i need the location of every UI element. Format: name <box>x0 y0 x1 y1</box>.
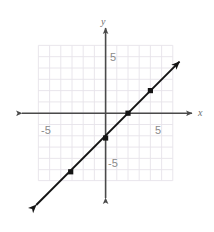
coordinate-plane-figure: 5 -5 5 -5 x y <box>0 0 214 232</box>
y-tick-label-negative: -5 <box>108 157 118 169</box>
x-tick-label-positive: 5 <box>155 124 161 136</box>
y-axis-label: y <box>101 16 105 27</box>
data-point <box>148 88 153 93</box>
x-tick-label-negative: -5 <box>41 124 51 136</box>
x-axis-label: x <box>198 107 202 118</box>
graph-canvas <box>0 0 214 232</box>
data-point <box>125 111 130 116</box>
y-tick-label-positive: 5 <box>110 51 116 63</box>
data-point <box>103 135 108 140</box>
data-point <box>68 169 73 174</box>
